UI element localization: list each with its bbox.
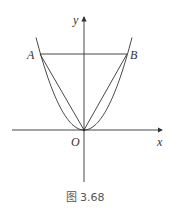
figure-caption: 图 3.68 [66,191,105,204]
figure-diagram: y x O A B 图 3.68 [0,0,170,214]
y-axis-label: y [72,13,79,27]
point-a-label: A [26,48,35,62]
origin-point [83,129,86,132]
segment-bo [84,54,127,130]
segment-ao [40,54,84,130]
origin-label: O [71,135,80,149]
point-b-label: B [130,48,138,62]
x-axis-label: x [156,135,163,149]
